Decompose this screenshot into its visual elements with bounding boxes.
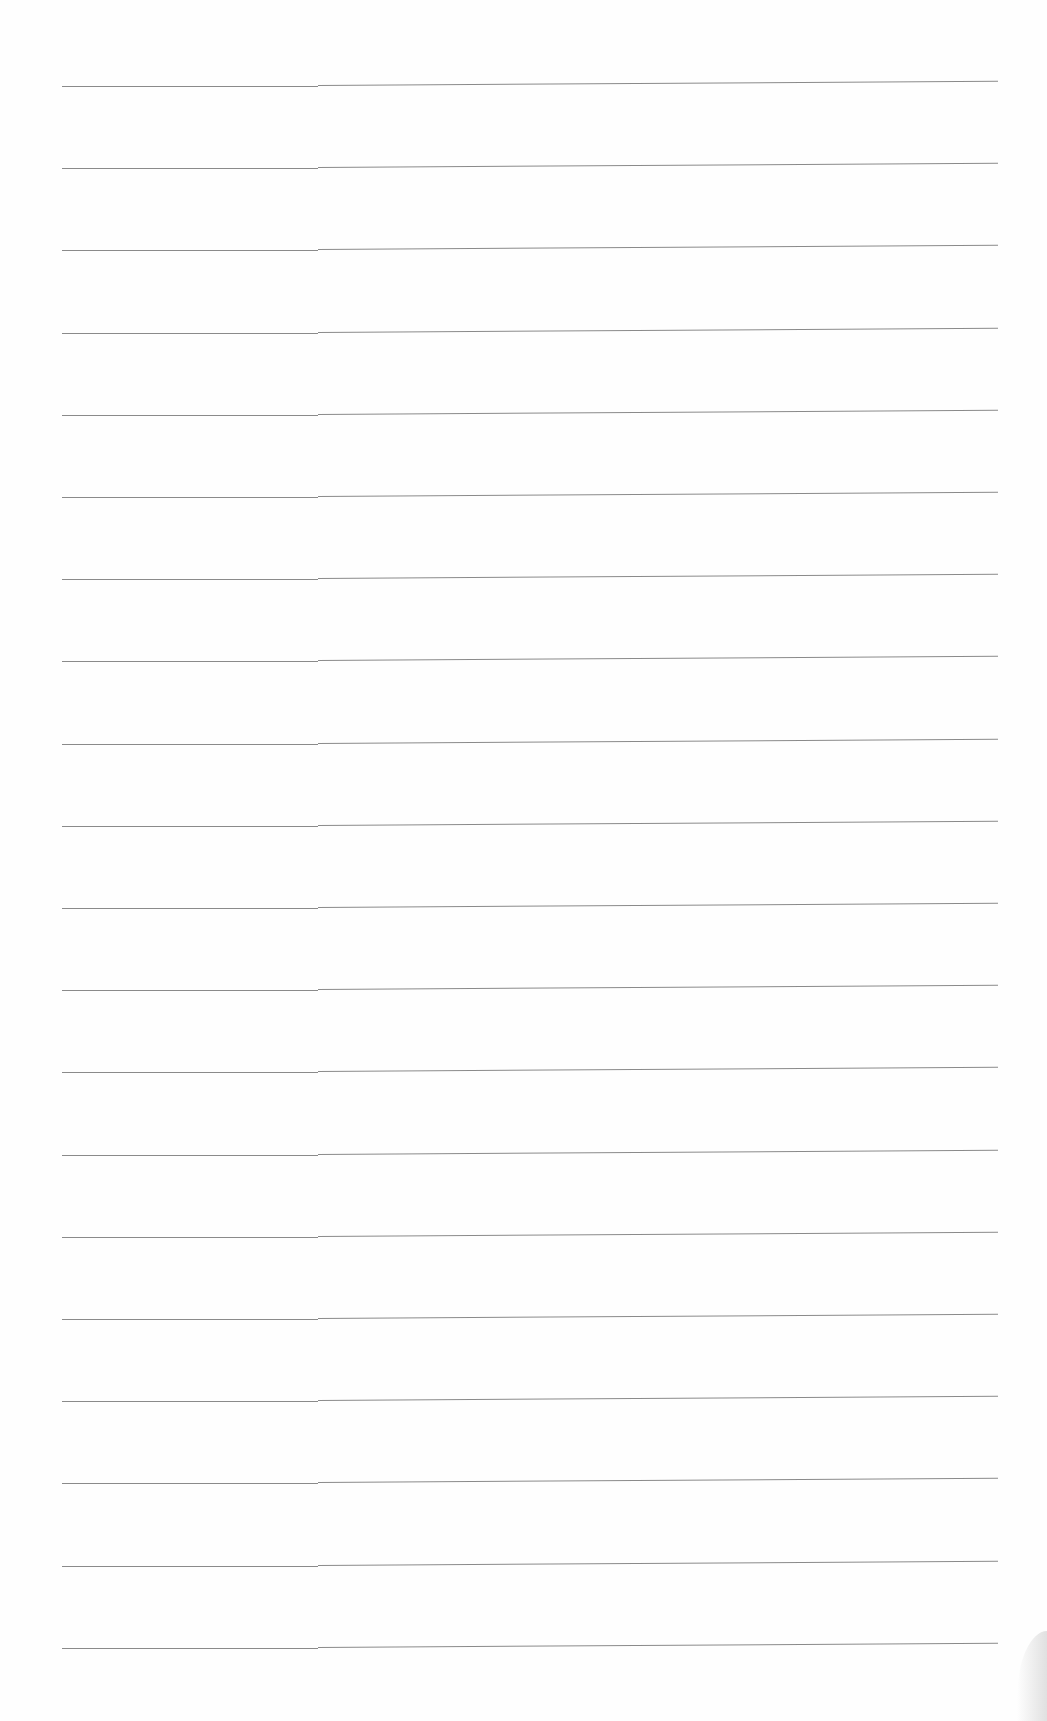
ruled-line-right-segment — [318, 1478, 998, 1483]
ruled-line-right-segment — [318, 656, 998, 661]
ruled-line-left-segment — [62, 1648, 318, 1649]
ruled-line-left-segment — [62, 86, 318, 87]
corner-smudge — [1017, 1631, 1047, 1721]
ruled-line-left-segment — [62, 1237, 318, 1238]
ruled-line-right-segment — [318, 985, 998, 990]
ruled-line-right-segment — [318, 163, 998, 168]
ruled-line-right-segment — [318, 574, 998, 579]
ruled-line-left-segment — [62, 415, 318, 416]
ruled-line-right-segment — [318, 903, 998, 908]
ruled-line-right-segment — [318, 1643, 998, 1648]
ruled-line-right-segment — [318, 327, 998, 332]
ruled-line-right-segment — [318, 81, 998, 86]
ruled-line-left-segment — [62, 908, 318, 909]
ruled-line-left-segment — [62, 1566, 318, 1567]
ruled-line-right-segment — [318, 821, 998, 826]
ruled-line-right-segment — [318, 1067, 998, 1072]
ruled-paper-page — [0, 0, 1047, 1721]
ruled-line-left-segment — [62, 1401, 318, 1402]
ruled-line-right-segment — [318, 738, 998, 743]
ruled-line-right-segment — [318, 1560, 998, 1565]
ruled-line-left-segment — [62, 497, 318, 498]
ruled-line-left-segment — [62, 1483, 318, 1484]
ruled-line-left-segment — [62, 250, 318, 251]
ruled-line-left-segment — [62, 1072, 318, 1073]
ruled-line-left-segment — [62, 661, 318, 662]
ruled-line-right-segment — [318, 1396, 998, 1401]
ruled-line-left-segment — [62, 579, 318, 580]
ruled-line-left-segment — [62, 1319, 318, 1320]
ruled-line-right-segment — [318, 245, 998, 250]
ruled-line-right-segment — [318, 1314, 998, 1319]
ruled-line-left-segment — [62, 333, 318, 334]
ruled-line-right-segment — [318, 1232, 998, 1237]
ruled-line-left-segment — [62, 1155, 318, 1156]
ruled-line-left-segment — [62, 990, 318, 991]
ruled-line-left-segment — [62, 168, 318, 169]
ruled-line-right-segment — [318, 1149, 998, 1154]
ruled-line-right-segment — [318, 410, 998, 415]
ruled-line-left-segment — [62, 826, 318, 827]
ruled-line-right-segment — [318, 492, 998, 497]
ruled-line-left-segment — [62, 744, 318, 745]
